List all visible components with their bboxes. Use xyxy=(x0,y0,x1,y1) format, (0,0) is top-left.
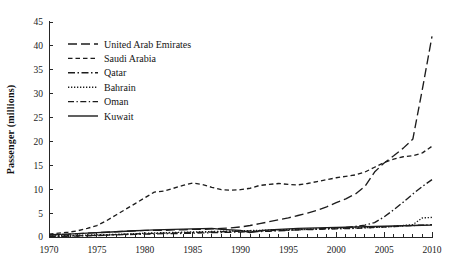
y-tick-label: 35 xyxy=(34,65,44,75)
series-line-united-arab-emirates xyxy=(49,36,432,235)
legend-label-qatar: Qatar xyxy=(104,67,127,78)
x-tick-label: 1975 xyxy=(87,245,106,255)
y-tick-label: 10 xyxy=(34,185,44,195)
x-tick-label: 2005 xyxy=(375,245,394,255)
y-tick-label: 15 xyxy=(34,161,44,171)
legend-label-kuwait: Kuwait xyxy=(104,111,134,122)
legend-label-united-arab-emirates: United Arab Emirates xyxy=(104,39,191,50)
y-tick-label: 40 xyxy=(34,41,44,51)
y-tick-label: 45 xyxy=(34,17,44,27)
legend-label-saudi-arabia: Saudi Arabia xyxy=(104,53,156,64)
y-tick-label: 0 xyxy=(38,232,43,242)
y-tick-label: 30 xyxy=(34,89,44,99)
y-axis-label: Passenger (millions) xyxy=(5,85,17,175)
x-tick-label: 1970 xyxy=(40,245,59,255)
x-tick-label: 1995 xyxy=(279,245,298,255)
chart-container: 051015202530354045Passenger (millions)19… xyxy=(0,0,455,268)
x-tick-label: 1990 xyxy=(231,245,250,255)
y-tick-label: 25 xyxy=(34,113,44,123)
x-tick-label: 1985 xyxy=(183,245,202,255)
passenger-line-chart: 051015202530354045Passenger (millions)19… xyxy=(0,0,455,268)
x-tick-label: 2000 xyxy=(327,245,346,255)
legend-label-oman: Oman xyxy=(104,96,128,107)
x-tick-label: 1980 xyxy=(135,245,154,255)
series-line-saudi-arabia xyxy=(49,146,432,234)
x-tick-label: 2010 xyxy=(423,245,442,255)
y-tick-label: 5 xyxy=(38,209,43,219)
y-tick-label: 20 xyxy=(34,137,44,147)
legend-label-bahrain: Bahrain xyxy=(104,82,136,93)
